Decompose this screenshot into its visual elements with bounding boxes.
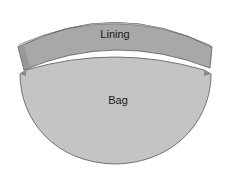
bag-lining-diagram xyxy=(0,0,226,178)
lining-label: Lining xyxy=(100,28,129,40)
bag-label: Bag xyxy=(108,94,128,106)
bag-shape xyxy=(20,57,211,164)
